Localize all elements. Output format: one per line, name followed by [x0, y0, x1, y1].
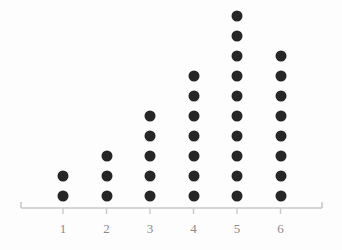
data-point-dot: [232, 31, 243, 42]
data-point-dot: [188, 171, 199, 182]
data-point-dot: [275, 151, 286, 162]
data-point-dot: [58, 171, 69, 182]
data-point-dot: [101, 151, 112, 162]
data-point-dot: [188, 131, 199, 142]
data-point-dot: [101, 171, 112, 182]
x-axis-tick-label: 4: [190, 222, 197, 235]
data-point-dot: [275, 51, 286, 62]
data-point-dot: [232, 191, 243, 202]
data-point-dot: [101, 191, 112, 202]
dot-plot-chart: 123456: [0, 0, 342, 250]
x-axis-tick-label: 6: [277, 222, 284, 235]
data-point-dot: [275, 131, 286, 142]
x-axis-tick-label: 3: [147, 222, 154, 235]
data-point-dot: [188, 91, 199, 102]
data-point-dot: [188, 151, 199, 162]
data-point-dot: [232, 51, 243, 62]
data-point-dot: [145, 151, 156, 162]
x-axis-tick-label: 2: [103, 222, 110, 235]
data-point-dot: [275, 191, 286, 202]
x-axis-tick-label: 5: [234, 222, 241, 235]
data-point-dot: [232, 111, 243, 122]
plot-area: 123456: [0, 0, 342, 250]
data-point-dot: [232, 71, 243, 82]
data-point-dot: [58, 191, 69, 202]
data-point-dot: [188, 191, 199, 202]
data-point-dot: [232, 91, 243, 102]
data-point-dot: [145, 111, 156, 122]
data-point-dot: [275, 91, 286, 102]
data-point-dot: [232, 131, 243, 142]
data-point-dot: [232, 11, 243, 22]
data-point-dot: [145, 191, 156, 202]
data-point-dot: [188, 71, 199, 82]
data-point-dot: [275, 71, 286, 82]
x-axis-tick-label: 1: [60, 222, 67, 235]
data-point-dot: [275, 171, 286, 182]
data-point-dot: [232, 151, 243, 162]
data-point-dot: [188, 111, 199, 122]
data-point-dot: [275, 111, 286, 122]
data-point-dot: [145, 171, 156, 182]
data-point-dot: [232, 171, 243, 182]
data-point-dot: [145, 131, 156, 142]
